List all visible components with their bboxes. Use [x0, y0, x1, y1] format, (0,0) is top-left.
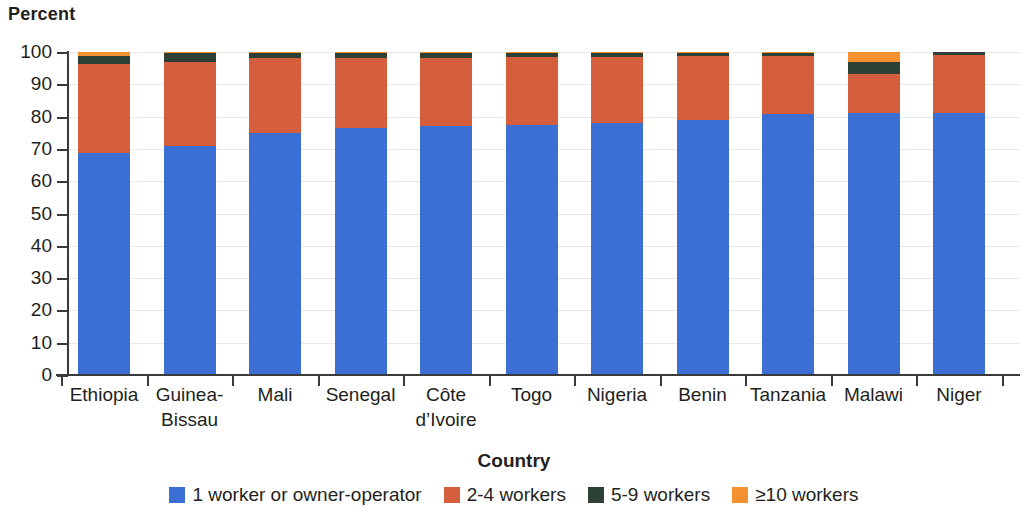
y-axis-tick-label-group: 0102030405060708090100 — [0, 0, 52, 512]
y-axis-tick-label: 30 — [4, 267, 52, 289]
y-axis-tick-mark — [57, 214, 68, 216]
bar-segment[interactable] — [78, 56, 130, 64]
bar-segment[interactable] — [78, 64, 130, 153]
x-axis-tick-label-group: EthiopiaGuinea-BissauMaliSenegalCôted’Iv… — [68, 382, 1020, 440]
legend-label: ≥10 workers — [755, 484, 858, 506]
x-axis-title: Country — [0, 450, 1028, 472]
bar-segment[interactable] — [506, 57, 558, 125]
bar-segment[interactable] — [335, 58, 387, 128]
legend-label: 5-9 workers — [611, 484, 710, 506]
x-axis-tick-label: Niger — [903, 382, 1015, 407]
y-axis-tick-label: 50 — [4, 203, 52, 225]
legend-item[interactable]: ≥10 workers — [732, 484, 858, 506]
y-axis-tick-mark — [57, 84, 68, 86]
bar-segment[interactable] — [848, 52, 900, 62]
bar-segment[interactable] — [335, 128, 387, 375]
bar-segment[interactable] — [249, 53, 301, 58]
bar-segment[interactable] — [762, 52, 814, 53]
bar-segment[interactable] — [848, 62, 900, 74]
chart-legend: 1 worker or owner-operator2-4 workers5-9… — [0, 484, 1028, 506]
bar-segment[interactable] — [677, 56, 729, 120]
x-axis-tick-label-line: Bissau — [134, 407, 246, 432]
x-axis-tick-label-line: d’Ivoire — [390, 407, 502, 432]
y-axis-tick-mark — [57, 181, 68, 183]
legend-item[interactable]: 5-9 workers — [588, 484, 710, 506]
bar-segment[interactable] — [420, 58, 472, 126]
y-axis-tick-label: 40 — [4, 235, 52, 257]
bar-segment[interactable] — [249, 58, 301, 133]
bar-segment[interactable] — [848, 74, 900, 113]
bar-segment[interactable] — [335, 52, 387, 53]
bar-segment[interactable] — [591, 57, 643, 123]
bar-segment[interactable] — [506, 52, 558, 53]
y-axis-tick-label: 20 — [4, 299, 52, 321]
bar-segment[interactable] — [249, 133, 301, 375]
bar-segment[interactable] — [420, 126, 472, 375]
plot-area — [68, 52, 1020, 375]
bar-segment[interactable] — [933, 113, 985, 375]
legend-swatch-5-9-workers — [588, 487, 604, 503]
bar-segment[interactable] — [933, 52, 985, 55]
y-axis-tick-mark — [57, 149, 68, 151]
bar-segment[interactable] — [420, 52, 472, 53]
y-axis-tick-mark — [57, 52, 68, 54]
bar-segment[interactable] — [762, 56, 814, 114]
legend-label: 2-4 workers — [467, 484, 566, 506]
y-axis-tick-label: 80 — [4, 106, 52, 128]
y-axis-tick-mark — [57, 246, 68, 248]
y-axis-tick-label: 10 — [4, 332, 52, 354]
stacked-bar-chart-figure: Percent 0102030405060708090100 EthiopiaG… — [0, 0, 1028, 512]
y-axis-tick-label: 90 — [4, 73, 52, 95]
bar-segment[interactable] — [164, 62, 216, 146]
x-axis-line — [56, 374, 1020, 376]
bar-segment[interactable] — [335, 53, 387, 58]
x-axis-tick-label-line: Niger — [903, 382, 1015, 407]
bar-segment[interactable] — [506, 125, 558, 375]
y-axis-tick-mark — [57, 117, 68, 119]
y-axis-tick-label: 70 — [4, 138, 52, 160]
legend-swatch-2-4-workers — [444, 487, 460, 503]
bar-segment[interactable] — [591, 53, 643, 57]
bar-segment[interactable] — [164, 52, 216, 53]
bar-segment[interactable] — [762, 53, 814, 56]
bar-segment[interactable] — [591, 52, 643, 53]
legend-swatch-1-worker — [169, 487, 185, 503]
y-axis-tick-label: 0 — [4, 364, 52, 386]
legend-label: 1 worker or owner-operator — [192, 484, 421, 506]
legend-swatch-10-plus-workers — [732, 487, 748, 503]
bar-segment[interactable] — [591, 123, 643, 375]
bar-segment[interactable] — [164, 146, 216, 375]
bar-segment[interactable] — [677, 53, 729, 56]
y-axis-tick-mark — [57, 310, 68, 312]
legend-item[interactable]: 1 worker or owner-operator — [169, 484, 421, 506]
bar-segment[interactable] — [677, 52, 729, 53]
bar-segment[interactable] — [420, 53, 472, 58]
legend-item[interactable]: 2-4 workers — [444, 484, 566, 506]
bar-segment[interactable] — [762, 114, 814, 375]
y-axis-tick-label: 100 — [4, 41, 52, 63]
bar-segment[interactable] — [249, 52, 301, 53]
bar-segment[interactable] — [78, 153, 130, 375]
bar-segment[interactable] — [506, 53, 558, 57]
bar-segment[interactable] — [164, 53, 216, 62]
bar-segment[interactable] — [677, 120, 729, 375]
bar-segment[interactable] — [848, 113, 900, 375]
y-axis-tick-label: 60 — [4, 170, 52, 192]
y-axis-tick-mark — [57, 278, 68, 280]
bar-segment[interactable] — [78, 52, 130, 56]
y-axis-tick-mark — [57, 343, 68, 345]
bar-segment[interactable] — [933, 55, 985, 113]
